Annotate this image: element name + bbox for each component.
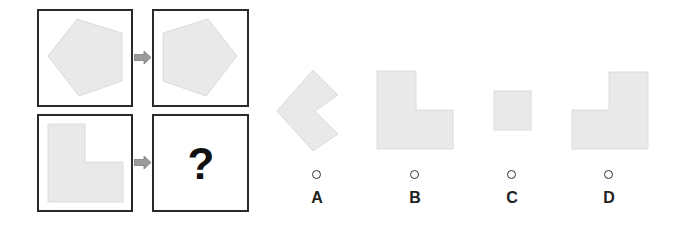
option-d-label: D [599, 190, 619, 206]
option-b[interactable] [372, 66, 458, 206]
question-mark: ? [176, 142, 226, 186]
option-c-label: C [502, 190, 522, 206]
option-a-label: A [307, 190, 327, 206]
option-a[interactable] [272, 66, 344, 206]
l-shape [48, 124, 123, 202]
arrow-right-icon [134, 156, 152, 169]
option-d[interactable] [567, 66, 653, 206]
pentagon-shape [48, 19, 122, 96]
option-a-radio[interactable] [312, 170, 321, 179]
option-c[interactable] [488, 66, 538, 206]
option-b-label: B [405, 190, 425, 206]
pentagon-mirrored-shape [163, 19, 237, 96]
option-b-radio[interactable] [410, 170, 419, 179]
arrow-right-icon [134, 51, 152, 64]
option-c-radio[interactable] [507, 170, 516, 179]
option-d-radio[interactable] [604, 170, 613, 179]
